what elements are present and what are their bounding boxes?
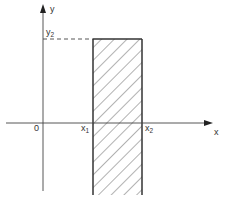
y2-label: y2	[46, 27, 55, 38]
y-axis-label: y	[50, 4, 55, 14]
hatched-region	[93, 39, 142, 195]
x-axis-label: x	[214, 127, 219, 137]
origin-label: 0	[34, 123, 39, 133]
y-axis-arrow-icon	[40, 4, 46, 13]
x2-label: x2	[145, 123, 154, 134]
x1-label: x1	[81, 123, 90, 134]
strip-region-diagram: y x 0 y2 x1 x2	[0, 0, 225, 199]
x-axis-arrow-icon	[204, 120, 213, 126]
